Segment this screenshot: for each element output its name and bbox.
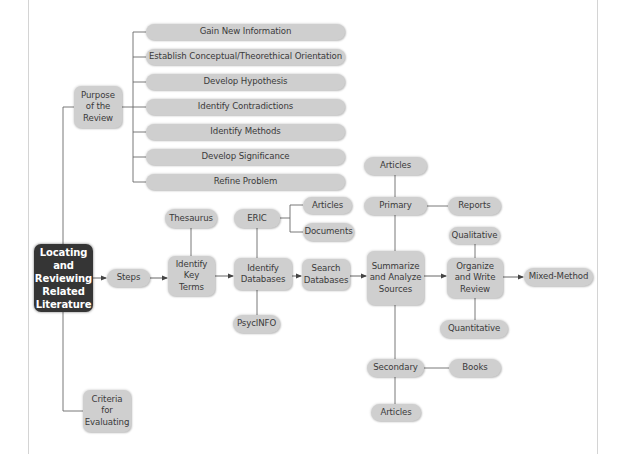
organize-write-review-node[interactable]: Organize and Write Review [447,258,503,298]
eric-documents-node[interactable]: Documents [303,223,354,241]
primary-node[interactable]: Primary [364,197,427,215]
quantitative-node[interactable]: Quantitative [440,320,508,338]
eric-node[interactable]: ERIC [234,209,280,228]
mixed-method-node[interactable]: Mixed-Method [524,268,593,286]
purpose-item-develop-hypothesis[interactable]: Develop Hypothesis [146,74,345,90]
primary-reports-node[interactable]: Reports [448,197,501,215]
summarize-analyze-sources-node[interactable]: Summarize and Analyze Sources [367,251,424,305]
root-node-locating-reviewing-literature[interactable]: Locating and Reviewing Related Literatur… [34,244,93,312]
thesaurus-node[interactable]: Thesaurus [165,209,217,228]
qualitative-node[interactable]: Qualitative [449,227,500,244]
identify-key-terms-node[interactable]: Identify Key Terms [168,256,215,296]
secondary-node[interactable]: Secondary [367,359,424,377]
purpose-item-gain-new-information[interactable]: Gain New Information [146,24,345,40]
purpose-item-refine-problem[interactable]: Refine Problem [146,174,345,190]
purpose-item-identify-contradictions[interactable]: Identify Contradictions [146,99,345,115]
psycinfo-node[interactable]: PsycINFO [233,315,280,333]
purpose-item-identify-methods[interactable]: Identify Methods [146,124,345,140]
primary-articles-node[interactable]: Articles [364,157,427,175]
purpose-item-develop-significance[interactable]: Develop Significance [146,149,345,165]
secondary-books-node[interactable]: Books [449,359,501,377]
steps-node[interactable]: Steps [107,269,150,287]
eric-articles-node[interactable]: Articles [303,197,352,214]
purpose-of-review-node[interactable]: Purpose of the Review [74,86,122,128]
identify-databases-node[interactable]: Identify Databases [234,258,292,290]
secondary-articles-node[interactable]: Articles [371,404,421,421]
criteria-for-evaluating-node[interactable]: Criteria for Evaluating [83,390,131,432]
search-databases-node[interactable]: Search Databases [302,259,350,290]
purpose-item-establish-orientation[interactable]: Establish Conceptual/Theorethical Orient… [146,49,345,65]
